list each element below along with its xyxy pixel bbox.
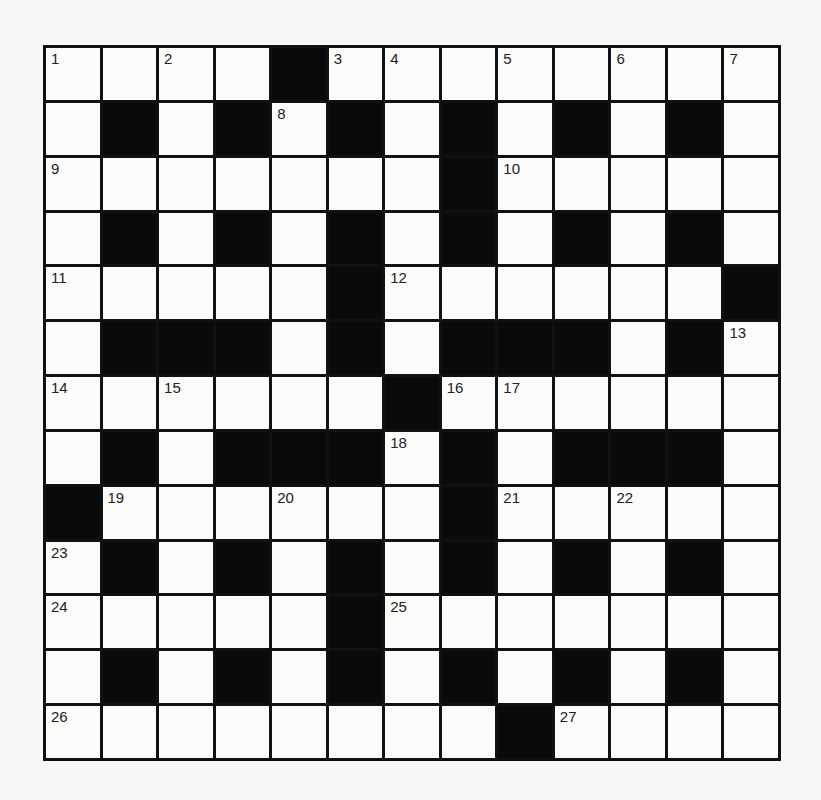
grid-cell[interactable] <box>611 651 665 703</box>
grid-cell[interactable] <box>216 487 270 539</box>
grid-cell[interactable] <box>272 651 326 703</box>
grid-cell[interactable] <box>46 651 100 703</box>
grid-cell[interactable] <box>724 432 778 484</box>
grid-cell[interactable] <box>555 267 609 319</box>
grid-cell[interactable] <box>555 48 609 100</box>
grid-cell[interactable] <box>159 651 213 703</box>
grid-cell[interactable]: 4 <box>385 48 439 100</box>
grid-cell[interactable] <box>498 432 552 484</box>
grid-cell[interactable] <box>385 103 439 155</box>
grid-cell[interactable] <box>216 267 270 319</box>
grid-cell[interactable] <box>611 158 665 210</box>
grid-cell[interactable] <box>272 213 326 265</box>
grid-cell[interactable]: 19 <box>103 487 157 539</box>
grid-cell[interactable] <box>103 706 157 758</box>
grid-cell[interactable]: 1 <box>46 48 100 100</box>
grid-cell[interactable] <box>724 213 778 265</box>
grid-cell[interactable]: 18 <box>385 432 439 484</box>
grid-cell[interactable] <box>611 213 665 265</box>
grid-cell[interactable] <box>329 377 383 429</box>
grid-cell[interactable] <box>668 377 722 429</box>
grid-cell[interactable] <box>385 651 439 703</box>
grid-cell[interactable]: 8 <box>272 103 326 155</box>
grid-cell[interactable]: 2 <box>159 48 213 100</box>
grid-cell[interactable] <box>498 651 552 703</box>
grid-cell[interactable]: 25 <box>385 596 439 648</box>
grid-cell[interactable] <box>272 377 326 429</box>
grid-cell[interactable] <box>272 542 326 594</box>
grid-cell[interactable] <box>46 432 100 484</box>
grid-cell[interactable] <box>385 213 439 265</box>
grid-cell[interactable]: 24 <box>46 596 100 648</box>
grid-cell[interactable] <box>216 706 270 758</box>
grid-cell[interactable] <box>103 158 157 210</box>
grid-cell[interactable]: 20 <box>272 487 326 539</box>
grid-cell[interactable]: 27 <box>555 706 609 758</box>
grid-cell[interactable] <box>46 103 100 155</box>
grid-cell[interactable] <box>555 596 609 648</box>
grid-cell[interactable] <box>385 158 439 210</box>
grid-cell[interactable] <box>159 487 213 539</box>
grid-cell[interactable] <box>668 158 722 210</box>
grid-cell[interactable] <box>329 158 383 210</box>
grid-cell[interactable]: 10 <box>498 158 552 210</box>
grid-cell[interactable] <box>159 158 213 210</box>
grid-cell[interactable] <box>724 542 778 594</box>
grid-cell[interactable] <box>442 706 496 758</box>
grid-cell[interactable] <box>498 596 552 648</box>
grid-cell[interactable] <box>216 48 270 100</box>
grid-cell[interactable]: 11 <box>46 267 100 319</box>
grid-cell[interactable] <box>216 596 270 648</box>
grid-cell[interactable] <box>385 487 439 539</box>
grid-cell[interactable]: 7 <box>724 48 778 100</box>
grid-cell[interactable]: 14 <box>46 377 100 429</box>
grid-cell[interactable] <box>159 432 213 484</box>
grid-cell[interactable]: 15 <box>159 377 213 429</box>
grid-cell[interactable] <box>498 267 552 319</box>
grid-cell[interactable]: 13 <box>724 322 778 374</box>
grid-cell[interactable]: 16 <box>442 377 496 429</box>
grid-cell[interactable] <box>611 706 665 758</box>
grid-cell[interactable] <box>216 158 270 210</box>
grid-cell[interactable] <box>724 651 778 703</box>
grid-cell[interactable] <box>611 103 665 155</box>
grid-cell[interactable]: 5 <box>498 48 552 100</box>
grid-cell[interactable] <box>724 487 778 539</box>
grid-cell[interactable] <box>668 706 722 758</box>
grid-cell[interactable] <box>498 213 552 265</box>
grid-cell[interactable] <box>611 377 665 429</box>
grid-cell[interactable] <box>385 542 439 594</box>
grid-cell[interactable] <box>159 267 213 319</box>
grid-cell[interactable] <box>442 48 496 100</box>
grid-cell[interactable]: 22 <box>611 487 665 539</box>
grid-cell[interactable] <box>668 596 722 648</box>
grid-cell[interactable] <box>103 377 157 429</box>
grid-cell[interactable] <box>668 48 722 100</box>
grid-cell[interactable] <box>103 267 157 319</box>
grid-cell[interactable] <box>611 596 665 648</box>
grid-cell[interactable] <box>46 213 100 265</box>
grid-cell[interactable] <box>159 103 213 155</box>
grid-cell[interactable] <box>272 322 326 374</box>
grid-cell[interactable]: 23 <box>46 542 100 594</box>
grid-cell[interactable] <box>272 596 326 648</box>
grid-cell[interactable] <box>498 103 552 155</box>
grid-cell[interactable] <box>724 706 778 758</box>
grid-cell[interactable] <box>498 542 552 594</box>
grid-cell[interactable] <box>329 706 383 758</box>
grid-cell[interactable]: 12 <box>385 267 439 319</box>
grid-cell[interactable] <box>46 322 100 374</box>
grid-cell[interactable] <box>611 542 665 594</box>
grid-cell[interactable] <box>668 487 722 539</box>
grid-cell[interactable] <box>555 487 609 539</box>
grid-cell[interactable] <box>216 377 270 429</box>
grid-cell[interactable] <box>724 377 778 429</box>
grid-cell[interactable] <box>724 596 778 648</box>
grid-cell[interactable] <box>442 267 496 319</box>
grid-cell[interactable] <box>272 158 326 210</box>
grid-cell[interactable] <box>329 487 383 539</box>
grid-cell[interactable] <box>668 267 722 319</box>
grid-cell[interactable] <box>724 158 778 210</box>
grid-cell[interactable] <box>159 213 213 265</box>
grid-cell[interactable]: 3 <box>329 48 383 100</box>
